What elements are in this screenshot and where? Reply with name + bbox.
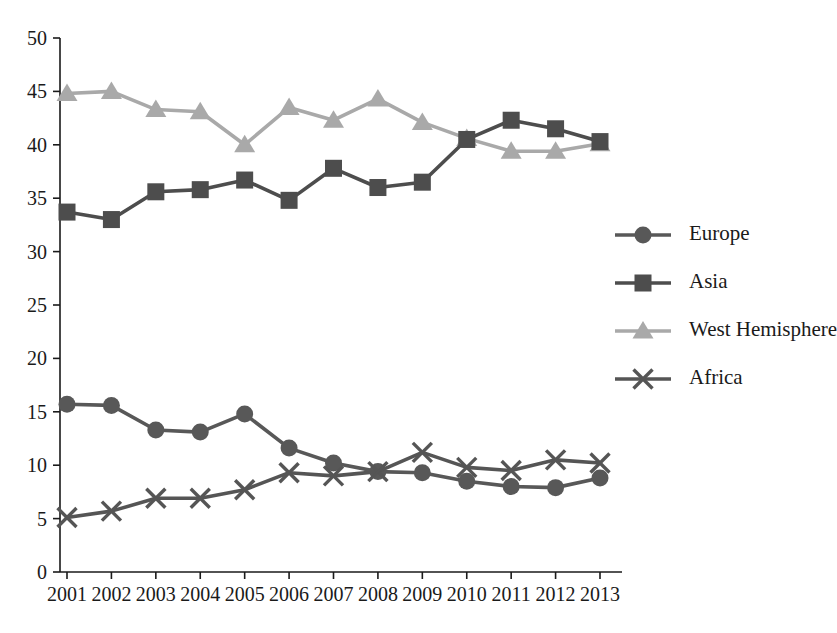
circle-marker [547,479,564,496]
cross-marker [413,443,432,462]
square-marker [192,181,209,198]
legend-label: Europe [689,221,750,245]
x-tick-label: 2008 [358,583,398,605]
legend-label: Africa [689,365,743,389]
legend-item-africa[interactable]: Africa [615,365,743,389]
legend-item-asia[interactable]: Asia [615,269,728,293]
data-series-group [57,81,611,527]
legend-item-west-hemisphere[interactable]: West Hemisphere [615,317,837,341]
series-asia [59,112,609,228]
line-chart: 05101520253035404550 2001200220032004200… [0,0,837,633]
square-marker [59,204,76,221]
series-west-hemisphere [57,81,611,158]
circle-marker [635,227,652,244]
triangle-marker [412,112,433,130]
square-marker [458,131,475,148]
square-marker [281,192,298,209]
square-marker [236,172,253,189]
y-tick-label: 10 [27,454,47,476]
x-tick-label: 2013 [580,583,620,605]
square-marker [325,160,342,177]
circle-marker [414,464,431,481]
triangle-marker [367,89,388,107]
legend-item-europe[interactable]: Europe [615,221,750,245]
x-tick-label: 2009 [402,583,442,605]
chart-canvas: 05101520253035404550 2001200220032004200… [0,0,837,633]
y-tick-label: 15 [27,401,47,423]
legend-label: Asia [689,269,728,293]
x-axis: 2001200220032004200520062007200820092010… [47,572,622,605]
x-tick-label: 2012 [536,583,576,605]
x-tick-label: 2007 [314,583,354,605]
y-tick-label: 35 [27,187,47,209]
x-tick-label: 2010 [447,583,487,605]
y-tick-label: 20 [27,347,47,369]
circle-marker [281,440,298,457]
y-axis: 05101520253035404550 [27,27,60,583]
x-tick-label: 2005 [225,583,265,605]
y-tick-label: 50 [27,27,47,49]
circle-marker [103,397,120,414]
square-marker [369,179,386,196]
series-europe [59,396,609,496]
square-marker [635,275,652,292]
x-tick-label: 2004 [180,583,220,605]
x-tick-label: 2001 [47,583,87,605]
y-tick-label: 25 [27,294,47,316]
circle-marker [192,424,209,441]
square-marker [547,120,564,137]
x-tick-label: 2002 [91,583,131,605]
square-marker [147,183,164,200]
y-tick-label: 0 [37,561,47,583]
legend-label: West Hemisphere [689,317,837,341]
y-tick-label: 40 [27,134,47,156]
x-tick-label: 2011 [492,583,531,605]
y-tick-label: 30 [27,241,47,263]
x-tick-label: 2006 [269,583,309,605]
square-marker [503,112,520,129]
square-marker [592,133,609,150]
circle-marker [592,470,609,487]
square-marker [103,211,120,228]
triangle-marker [279,97,300,115]
circle-marker [59,396,76,413]
circle-marker [147,421,164,438]
circle-marker [503,478,520,495]
circle-marker [236,405,253,422]
y-tick-label: 5 [37,508,47,530]
x-tick-label: 2003 [136,583,176,605]
square-marker [414,174,431,191]
y-tick-label: 45 [27,80,47,102]
chart-legend: EuropeAsiaWest HemisphereAfrica [615,221,837,389]
